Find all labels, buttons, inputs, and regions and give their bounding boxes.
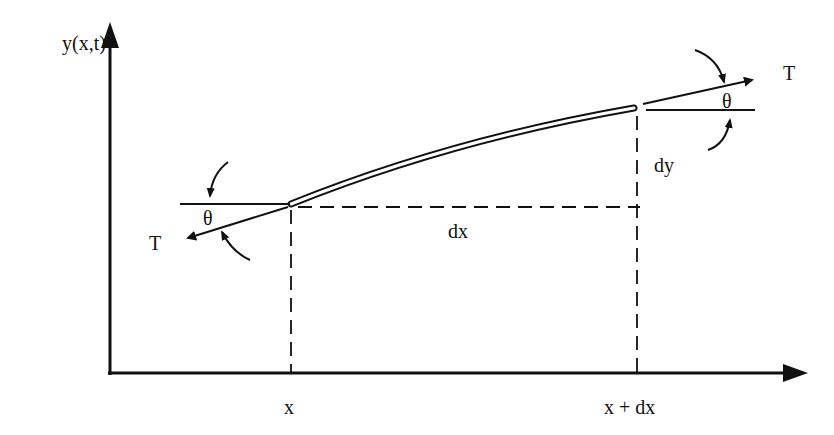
y-axis: [101, 22, 119, 375]
x-axis: [108, 364, 808, 382]
theta-right-label: θ: [722, 90, 732, 113]
string-element: [291, 108, 634, 204]
y-axis-label: y(x,t): [62, 32, 106, 55]
tension-right-label: T: [783, 62, 795, 85]
dashed-guides: [291, 116, 640, 372]
tension-left-label: T: [149, 232, 161, 255]
left-angle-arrow-bottom-icon: [222, 232, 250, 260]
right-angle-arrow-top-icon: [695, 50, 724, 82]
x-label: x: [284, 396, 294, 419]
left-angle-arrow-top-icon: [210, 162, 228, 196]
x-axis-arrow-icon: [783, 364, 808, 382]
x-plus-dx-label: x + dx: [604, 396, 655, 419]
theta-left-label: θ: [203, 207, 213, 230]
dx-label: dx: [448, 220, 468, 243]
right-tension-arrow-icon: [643, 80, 752, 104]
right-tension: [643, 50, 755, 150]
left-tension: [180, 162, 290, 260]
string-tension-diagram: [0, 0, 834, 435]
right-angle-arrow-bottom-icon: [708, 120, 730, 150]
dy-label: dy: [654, 154, 674, 177]
